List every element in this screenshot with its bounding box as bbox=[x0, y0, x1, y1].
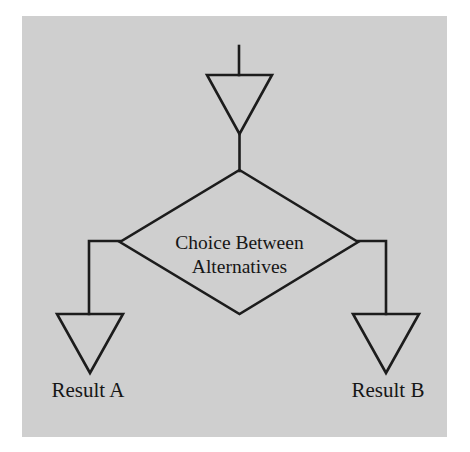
right-branch-line bbox=[358, 241, 386, 314]
flowchart-svg: Choice Between Alternatives Result A Res… bbox=[0, 0, 470, 452]
left-branch-line bbox=[89, 241, 120, 314]
result-a-label: Result A bbox=[52, 378, 126, 402]
result-b-label: Result B bbox=[352, 378, 425, 402]
decision-label-line1: Choice Between bbox=[175, 232, 304, 253]
input-triangle[interactable] bbox=[207, 75, 272, 134]
decision-label-line2: Alternatives bbox=[192, 256, 287, 277]
result-a-triangle[interactable] bbox=[57, 314, 123, 373]
result-b-triangle[interactable] bbox=[353, 314, 419, 373]
diagram-canvas: Choice Between Alternatives Result A Res… bbox=[0, 0, 470, 452]
